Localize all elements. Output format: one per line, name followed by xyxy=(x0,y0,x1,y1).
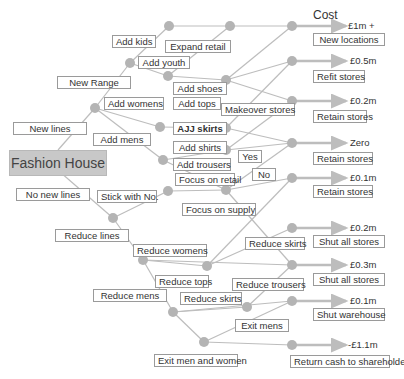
outcome-cost: -£1.1m xyxy=(348,339,378,350)
label-add-shirts: Add shirts xyxy=(173,141,227,154)
label-reduce-tops: Reduce tops xyxy=(155,275,209,288)
label-focus-on-supply: Focus on supply xyxy=(182,203,256,216)
outcome-action: Shut warehouse xyxy=(313,308,385,321)
label-add-mens: Add mens xyxy=(93,133,151,146)
label-exit-mens: Exit mens xyxy=(235,319,289,332)
outcome-action: Refit stores xyxy=(313,70,365,83)
outcome-action: Return cash to shareholders xyxy=(290,355,390,368)
label-yes: Yes xyxy=(238,150,262,163)
label-add-womens: Add womens xyxy=(104,97,164,110)
label-focus-on-retail: Focus on retail xyxy=(175,173,235,186)
label-add-skirts: AJJ skirts xyxy=(173,122,227,135)
outcome-cost: £0.1m xyxy=(350,295,376,306)
outcome-cost: £1m + xyxy=(348,20,375,31)
label-reduce-skirts-1: Reduce skirts xyxy=(245,237,305,250)
label-makeover-stores: Makeover stores xyxy=(221,103,295,116)
label-add-kids: Add kids xyxy=(112,35,156,48)
label-stick-with-no: Stick with No. xyxy=(97,190,157,203)
label-reduce-lines: Reduce lines xyxy=(55,229,129,242)
cost-header: Cost xyxy=(313,8,338,22)
label-no-new-lines: No new lines xyxy=(16,188,90,201)
outcome-action: Shut all stores xyxy=(313,235,385,248)
label-reduce-mens: Reduce mens xyxy=(93,289,167,302)
root-node: Fashion House xyxy=(9,150,107,176)
outcome-cost: Zero xyxy=(350,137,370,148)
label-no: No xyxy=(252,168,276,181)
label-reduce-trousers: Reduce trousers xyxy=(232,278,304,291)
outcome-cost: £0.5m xyxy=(350,55,376,66)
outcome-action: Shut all stores xyxy=(313,273,385,286)
label-add-tops: Add tops xyxy=(173,97,221,110)
label-new-lines: New lines xyxy=(13,122,87,135)
label-exit-men-and-women: Exit men and women xyxy=(154,354,238,367)
label-reduce-womens: Reduce womens xyxy=(133,244,207,257)
outcome-cost: £0.2m xyxy=(350,222,376,233)
label-expand-retail: Expand retail xyxy=(165,40,231,53)
label-new-range: New Range xyxy=(57,76,131,89)
outcome-cost: £0.3m xyxy=(350,259,376,270)
outcome-cost: £0.1m xyxy=(350,172,376,183)
outcome-action: Retain stores xyxy=(313,185,373,198)
label-add-trousers: Add trousers xyxy=(173,158,231,171)
outcome-action: Retain stores xyxy=(313,152,373,165)
label-add-shoes: Add shoes xyxy=(173,82,227,95)
label-add-youth: Add youth xyxy=(138,56,190,69)
outcome-action: Retain stores xyxy=(313,110,367,123)
outcome-cost: £0.2m xyxy=(350,95,376,106)
outcome-action: New locations xyxy=(313,33,385,46)
label-reduce-skirts-2: Reduce skirts xyxy=(180,292,242,305)
